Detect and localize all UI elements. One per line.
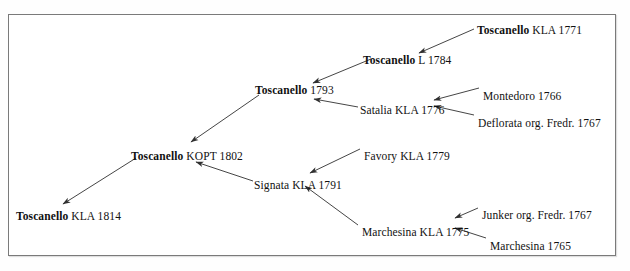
node-detail-label: 1793	[310, 84, 333, 96]
node-detail-label: KLA 1771	[532, 24, 582, 36]
node-detail-label: Deflorata org. Fredr. 1767	[478, 117, 601, 129]
node-satalia-kla-1776: Satalia KLA 1776	[360, 104, 445, 117]
node-name-label: Toscanello	[363, 54, 415, 66]
node-marchesina-kla-1775: Marchesina KLA 1775	[362, 226, 469, 239]
node-toscanello-1793: Toscanello 1793	[255, 84, 334, 97]
node-montedoro-1766: Montedoro 1766	[483, 90, 561, 103]
node-toscanello-kopt-1802: Toscanello KOPT 1802	[131, 150, 243, 163]
node-detail-label: Marchesina 1765	[490, 240, 571, 252]
pedigree-figure: Toscanello KLA 1771Toscanello L 1784Tosc…	[0, 0, 630, 271]
node-detail-label: Montedoro 1766	[483, 90, 561, 102]
node-detail-label: KLA 1814	[71, 210, 121, 222]
node-detail-label: Signata KLA 1791	[254, 179, 342, 191]
node-detail-label: Favory KLA 1779	[364, 150, 450, 162]
node-detail-label: L 1784	[418, 54, 451, 66]
node-detail-label: Marchesina KLA 1775	[362, 226, 469, 238]
node-detail-label: Junker org. Fredr. 1767	[482, 209, 592, 221]
node-signata-kla-1791: Signata KLA 1791	[254, 179, 342, 192]
node-toscanello-l-1784: Toscanello L 1784	[363, 54, 451, 67]
node-toscanello-kla-1771: Toscanello KLA 1771	[477, 24, 582, 37]
node-name-label: Toscanello	[16, 210, 68, 222]
node-marchesina-1765: Marchesina 1765	[490, 240, 571, 253]
node-favory-kla-1779: Favory KLA 1779	[364, 150, 450, 163]
node-detail-label: Satalia KLA 1776	[360, 104, 445, 116]
node-name-label: Toscanello	[477, 24, 529, 36]
node-name-label: Toscanello	[131, 150, 183, 162]
node-junker-org-fredr-1767: Junker org. Fredr. 1767	[482, 209, 592, 222]
node-deflorata-org-fredr-1767: Deflorata org. Fredr. 1767	[478, 117, 601, 130]
node-toscanello-kla-1814: Toscanello KLA 1814	[16, 210, 121, 223]
node-name-label: Toscanello	[255, 84, 307, 96]
node-detail-label: KOPT 1802	[186, 150, 243, 162]
